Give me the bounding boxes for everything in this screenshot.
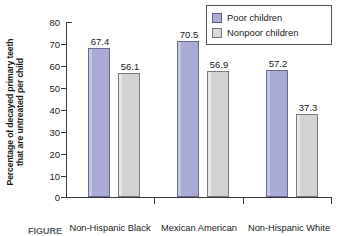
bar-non-hispanic-black-nonpoor[interactable]: 56.1: [118, 73, 140, 197]
y-axis-title: Percentage of decayed primary teeth that…: [0, 12, 30, 212]
y-tick-label-0: 0: [40, 192, 60, 203]
y-tick-mark-30: [61, 132, 66, 133]
plot-area: 67.4 56.1 70.5 56.9 57.2 37.3 Non-Hispan…: [66, 22, 332, 198]
y-axis-title-line2: that are untreated per child: [15, 39, 26, 186]
x-group-separator-2: [243, 198, 244, 204]
legend: Poor children Nonpoor children: [206, 5, 332, 45]
y-tick-mark-70: [61, 44, 66, 45]
y-tick-label-80: 80: [40, 17, 60, 28]
bar-non-hispanic-black-poor[interactable]: 67.4: [88, 48, 110, 197]
bar-value-label: 67.4: [80, 36, 120, 47]
y-tick-mark-50: [61, 88, 66, 89]
x-axis-line: [66, 197, 332, 198]
figure-caption: FIGURE: [28, 226, 328, 236]
y-tick-mark-60: [61, 66, 66, 67]
bar-non-hispanic-white-poor[interactable]: 57.2: [266, 70, 288, 197]
bar-value-label: 57.2: [258, 58, 298, 69]
x-axis-end-tick: [331, 198, 332, 204]
y-tick-label-70: 70: [40, 39, 60, 50]
y-axis-title-line1: Percentage of decayed primary teeth: [5, 39, 16, 186]
bar-non-hispanic-white-nonpoor[interactable]: 37.3: [296, 114, 318, 197]
legend-label-nonpoor: Nonpoor children: [227, 27, 298, 38]
bar-value-label: 56.1: [110, 61, 150, 72]
bar-value-label: 56.9: [199, 59, 239, 70]
y-tick-label-10: 10: [40, 171, 60, 182]
figure-container: Percentage of decayed primary teeth that…: [0, 0, 340, 236]
y-tick-label-50: 50: [40, 83, 60, 94]
y-tick-mark-40: [61, 110, 66, 111]
y-tick-mark-20: [61, 154, 66, 155]
y-tick-mark-0: [61, 197, 66, 198]
legend-item-nonpoor-children[interactable]: Nonpoor children: [212, 25, 325, 40]
legend-swatch-icon-poor: [212, 13, 222, 23]
bar-mexican-american-poor[interactable]: 70.5: [177, 41, 199, 197]
legend-label-poor: Poor children: [227, 12, 282, 23]
y-axis-line: [66, 22, 67, 198]
y-tick-mark-80: [66, 22, 72, 23]
y-tick-label-40: 40: [40, 105, 60, 116]
bar-mexican-american-nonpoor[interactable]: 56.9: [207, 71, 229, 197]
y-tick-mark-10: [61, 176, 66, 177]
legend-swatch-icon-nonpoor: [212, 28, 222, 38]
legend-item-poor-children[interactable]: Poor children: [212, 10, 325, 25]
figure-caption-text: FIGURE: [28, 226, 62, 236]
bar-value-label: 70.5: [169, 29, 209, 40]
x-group-separator-1: [154, 198, 155, 204]
y-tick-label-20: 20: [40, 149, 60, 160]
y-tick-label-30: 30: [40, 127, 60, 138]
bar-value-label: 37.3: [288, 102, 328, 113]
y-tick-label-60: 60: [40, 61, 60, 72]
